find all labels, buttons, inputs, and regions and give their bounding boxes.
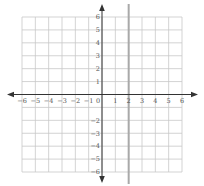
y-tick-label: 1 [96, 78, 100, 86]
arrow-down-icon [99, 176, 105, 183]
arrow-left-icon [7, 92, 14, 98]
x-tick-label: 2 [127, 97, 131, 105]
x-tick-label: 3 [140, 97, 144, 105]
y-tick-label: 2 [96, 65, 100, 73]
y-tick-label: 3 [96, 52, 100, 60]
y-tick-label: −5 [90, 155, 100, 163]
y-tick-label: −2 [90, 117, 100, 125]
y-tick-label: 4 [96, 39, 100, 47]
x-tick-label: −4 [44, 97, 54, 105]
y-tick-label: −4 [90, 142, 100, 150]
x-tick-label: −6 [17, 97, 27, 105]
x-tick-label: 4 [153, 97, 157, 105]
y-tick-label: −3 [90, 130, 100, 138]
arrow-right-icon [191, 92, 198, 98]
x-tick-label: −5 [31, 97, 41, 105]
x-tick-labels: −6−5−4−3−2−10123456 [17, 97, 184, 105]
x-tick-label: 1 [113, 97, 117, 105]
x-tick-label: −2 [71, 97, 81, 105]
x-tick-label: 5 [167, 97, 171, 105]
x-tick-label: 6 [180, 97, 184, 105]
y-tick-label: 6 [96, 13, 100, 21]
y-tick-label: 5 [96, 26, 100, 34]
y-tick-label: −6 [90, 168, 100, 176]
x-tick-label: −1 [84, 97, 94, 105]
x-tick-label: −3 [57, 97, 67, 105]
x-tick-label: 0 [96, 97, 100, 105]
arrow-up-icon [99, 4, 105, 11]
coordinate-plane: −6−5−4−3−2−10123456 654321−2−3−4−5−6 [0, 0, 204, 186]
